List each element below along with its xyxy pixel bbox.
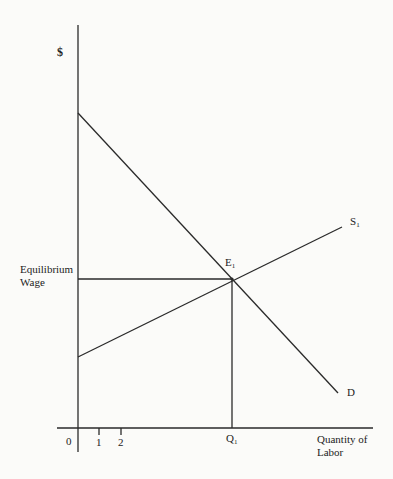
q1-label: Q1: [226, 432, 237, 449]
e1-label: E1: [225, 256, 235, 273]
eq-wage-line1: Equilibrium: [20, 263, 73, 276]
supply-label: S1: [350, 215, 360, 232]
y-axis-label: $: [57, 46, 63, 59]
x-axis-label: Quantity of Labor: [317, 433, 367, 459]
e1-text: E: [225, 256, 232, 268]
tick-1-label: 1: [96, 436, 102, 449]
demand-label: D: [347, 386, 355, 399]
supply-curve: [78, 227, 342, 357]
x-axis-label-line2: Labor: [317, 446, 367, 459]
equilibrium-wage-label: Equilibrium Wage: [20, 263, 73, 289]
e1-sub: 1: [232, 262, 236, 270]
eq-wage-line2: Wage: [20, 276, 73, 289]
chart-canvas: [0, 0, 393, 479]
tick-2-label: 2: [118, 436, 124, 449]
s1-sub: 1: [356, 221, 360, 229]
origin-label: 0: [66, 435, 72, 448]
q1-sub: 1: [234, 438, 238, 446]
demand-curve: [78, 113, 338, 393]
x-axis-label-line1: Quantity of: [317, 433, 367, 446]
equilibrium-point: [230, 277, 233, 280]
q1-text: Q: [226, 432, 234, 444]
